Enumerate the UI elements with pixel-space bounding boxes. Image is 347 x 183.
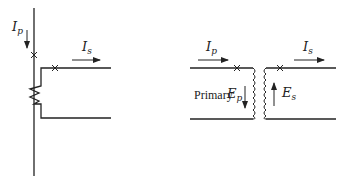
es-label: Es: [281, 85, 297, 102]
ep-label: Ep: [226, 86, 243, 103]
left-circuit: Ip Is: [11, 8, 111, 176]
is-label-right: Is: [302, 39, 313, 56]
ip-label-right: Ip: [205, 39, 217, 56]
secondary-coil: [264, 68, 266, 119]
right-circuit: Ip Primary Ep Is Es: [190, 39, 336, 119]
transformer-diagram: Ip Is Ip Primary Ep Is: [0, 0, 347, 183]
is-label-left: Is: [81, 39, 92, 56]
primary-coil: [253, 68, 255, 119]
ip-label-left: Ip: [11, 19, 23, 36]
secondary-loop-left: [30, 68, 111, 118]
